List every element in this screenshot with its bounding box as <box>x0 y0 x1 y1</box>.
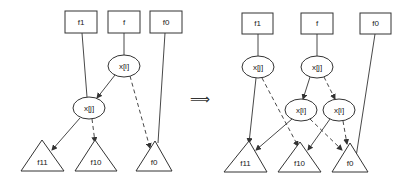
triangle-label: f10 <box>90 158 102 167</box>
variable-node-xi: x[i] <box>108 55 140 77</box>
variable-node-xi2: x[i] <box>323 99 355 121</box>
function-box-f1: f1 <box>242 13 273 34</box>
dashed-edge <box>324 77 335 99</box>
solid-edge <box>52 118 80 150</box>
triangle-label: f11 <box>37 158 48 167</box>
solid-edge <box>308 119 330 150</box>
dashed-edge <box>130 76 150 148</box>
triangle-label: f10 <box>294 159 306 168</box>
dashed-edge <box>343 121 347 144</box>
solid-edge <box>97 75 115 98</box>
node-label: x[i] <box>334 106 344 115</box>
box-label: f0 <box>372 19 379 28</box>
solid-edge <box>158 33 165 143</box>
node-label: x[i] <box>119 62 129 71</box>
bdd-transform-diagram: f1ff0x[i]x[j]f11f10f0 ⟹ f1ff0x[j]x[j]x[i… <box>0 0 409 182</box>
solid-edge <box>256 119 292 150</box>
implies-arrow-icon: ⟹ <box>190 91 210 107</box>
variable-node-xj: x[j] <box>73 97 105 119</box>
variable-node-xi1: x[i] <box>285 99 317 121</box>
node-label: x[j] <box>253 63 263 72</box>
subgraph-triangle-f0t: f0 <box>136 141 172 171</box>
variable-node-xj2: x[j] <box>301 56 333 78</box>
subgraph-triangle-f0t: f0 <box>332 143 368 172</box>
solid-edge <box>303 77 310 99</box>
box-label: f0 <box>163 18 170 27</box>
subgraph-triangle-f10: f10 <box>278 142 321 172</box>
node-label: x[i] <box>296 106 306 115</box>
function-box-f: f <box>108 11 140 33</box>
solid-edge <box>249 78 256 143</box>
triangle-label: f0 <box>347 159 354 168</box>
node-label: x[j] <box>84 104 94 113</box>
function-box-f: f <box>301 13 333 34</box>
right-graph: f1ff0x[j]x[j]x[i]x[i]f11f10f0 <box>224 13 391 172</box>
triangle-label: f0 <box>151 158 158 167</box>
box-label: f1 <box>78 18 85 27</box>
function-box-f0: f0 <box>150 11 182 33</box>
left-graph: f1ff0x[i]x[j]f11f10f0 <box>21 11 182 171</box>
solid-edge <box>356 34 375 157</box>
dashed-edge <box>310 119 342 150</box>
solid-edge <box>82 33 87 97</box>
function-box-f1: f1 <box>65 11 97 33</box>
triangle-label: f11 <box>240 159 251 168</box>
variable-node-xj1: x[j] <box>242 56 274 78</box>
subgraph-triangle-f10: f10 <box>75 140 117 171</box>
box-label: f1 <box>254 19 261 28</box>
subgraph-triangle-f11: f11 <box>21 140 64 171</box>
node-label: x[j] <box>312 63 322 72</box>
function-box-f0: f0 <box>360 13 391 34</box>
dashed-edge <box>92 119 95 142</box>
